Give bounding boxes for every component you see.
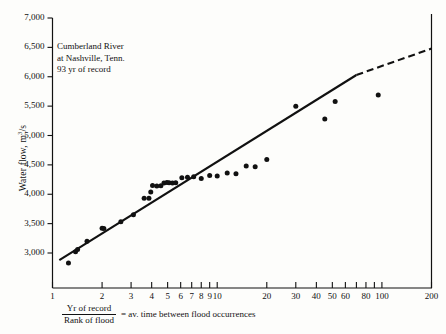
- data-point: [146, 196, 151, 201]
- data-point: [322, 117, 327, 122]
- data-point: [244, 164, 249, 169]
- fit-line-solid: [59, 75, 356, 260]
- data-point: [215, 174, 220, 179]
- data-point: [233, 171, 238, 176]
- x-axis-caption: Yr of record Rank of flood = av. time be…: [62, 303, 255, 325]
- data-point: [118, 219, 123, 224]
- fit-line-dashed: [356, 49, 431, 75]
- data-point: [333, 99, 338, 104]
- y-tick-label: 4,500: [0, 159, 45, 169]
- data-point: [293, 104, 298, 109]
- data-point: [150, 183, 155, 188]
- data-point: [66, 260, 71, 265]
- y-tick-label: 3,500: [0, 218, 45, 228]
- chart-annotation: Cumberland River at Nashville, Tenn. 93 …: [57, 41, 125, 76]
- data-point: [225, 171, 230, 176]
- x-tick-label: 2: [88, 291, 116, 301]
- chart-page: Water flow, m3/s Cumberland River at Nas…: [0, 0, 446, 334]
- y-tick-marks: [48, 18, 53, 253]
- x-axis-fraction: Yr of record Rank of flood: [62, 303, 116, 325]
- data-point: [75, 247, 80, 252]
- fit-line: [59, 49, 431, 260]
- x-tick-label: 100: [368, 291, 396, 301]
- data-point: [148, 189, 153, 194]
- x-axis-caption-tail: = av. time between flood occurrences: [121, 309, 255, 319]
- x-tick-label: 200: [418, 291, 446, 301]
- data-point: [131, 212, 136, 217]
- y-tick-label: 5,500: [0, 100, 45, 110]
- data-point: [376, 92, 381, 97]
- annotation-line-1: Cumberland River: [57, 41, 125, 53]
- y-tick-label: 6,000: [0, 71, 45, 81]
- y-tick-label: 4,000: [0, 188, 45, 198]
- y-tick-label: 7,000: [0, 12, 45, 22]
- data-point: [142, 196, 147, 201]
- x-tick-label: 10: [203, 291, 231, 301]
- data-point: [101, 226, 106, 231]
- data-point: [173, 180, 178, 185]
- data-point: [264, 157, 269, 162]
- y-tick-label: 3,000: [0, 247, 45, 257]
- x-axis-fraction-numerator: Yr of record: [65, 303, 113, 314]
- y-tick-label: 5,000: [0, 130, 45, 140]
- data-point: [85, 239, 90, 244]
- y-tick-label: 6,500: [0, 41, 45, 51]
- annotation-line-3: 93 yr of record: [57, 64, 125, 76]
- x-tick-label: 1: [39, 291, 67, 301]
- data-points: [66, 92, 381, 265]
- x-axis-fraction-denominator: Rank of flood: [62, 315, 116, 326]
- data-point: [185, 175, 190, 180]
- x-tick-marks: [53, 282, 432, 288]
- x-tick-label: 20: [253, 291, 281, 301]
- data-point: [199, 176, 204, 181]
- annotation-line-2: at Nashville, Tenn.: [57, 53, 125, 65]
- data-point: [207, 173, 212, 178]
- data-point: [191, 174, 196, 179]
- data-point: [253, 164, 258, 169]
- data-point: [179, 175, 184, 180]
